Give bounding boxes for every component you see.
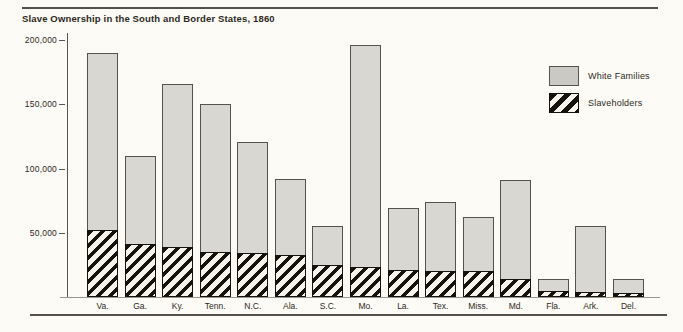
- x-axis-label-fla: Fla.: [533, 301, 573, 311]
- slaveholders-bar-ala: [275, 255, 306, 297]
- slaveholders-bar-del: [613, 293, 644, 297]
- white-families-swatch: [549, 66, 579, 86]
- y-tick-label: 50,000: [5, 228, 57, 238]
- slaveholders-bar-nc: [237, 253, 268, 297]
- white-families-bar-ark: [575, 226, 606, 297]
- white-families-label: White Families: [588, 71, 650, 81]
- x-axis-baseline: [60, 297, 660, 298]
- slaveholders-bar-mo: [350, 267, 381, 297]
- x-axis-label-ala: Ala.: [270, 301, 310, 311]
- y-tick-label: 150,000: [5, 99, 57, 109]
- slaveholders-bar-md: [500, 279, 531, 297]
- x-axis-label-ga: Ga.: [120, 301, 160, 311]
- chart-legend: White Families Slaveholders: [549, 65, 650, 119]
- y-tick-label: 100,000: [5, 164, 57, 174]
- x-axis-label-sc: S.C.: [308, 301, 348, 311]
- x-axis-label-md: Md.: [496, 301, 536, 311]
- y-tick-mark: [59, 169, 65, 170]
- bottom-rule: [30, 314, 667, 316]
- x-axis-label-la: La.: [383, 301, 423, 311]
- slaveholders-bar-ky: [162, 247, 193, 297]
- x-axis-label-nc: N.C.: [233, 301, 273, 311]
- slaveholders-bar-la: [388, 270, 419, 297]
- slaveholders-bar-ark: [575, 292, 606, 297]
- x-axis-label-tenn: Tenn.: [195, 301, 235, 311]
- y-tick-label: 200,000: [5, 35, 57, 45]
- legend-item-white-families: White Families: [549, 65, 650, 86]
- legend-item-slaveholders: Slaveholders: [549, 92, 650, 113]
- x-axis-label-va: Va.: [83, 301, 123, 311]
- slaveholders-bar-ga: [125, 244, 156, 297]
- y-axis-line: [67, 33, 68, 297]
- scanned-chart-page: Slave Ownership in the South and Border …: [0, 0, 683, 332]
- x-axis-label-del: Del.: [608, 301, 648, 311]
- y-tick-mark: [59, 104, 65, 105]
- y-tick-mark: [59, 40, 65, 41]
- white-families-bar-mo: [350, 45, 381, 297]
- slaveholders-swatch: [549, 93, 579, 113]
- x-axis-label-ky: Ky.: [158, 301, 198, 311]
- slaveholders-bar-fla: [538, 291, 569, 297]
- y-tick-mark: [59, 233, 65, 234]
- x-axis-label-ark: Ark.: [571, 301, 611, 311]
- x-axis-label-miss: Miss.: [458, 301, 498, 311]
- slaveholders-bar-tenn: [200, 252, 231, 297]
- slaveholders-label: Slaveholders: [588, 98, 642, 108]
- slaveholders-bar-sc: [312, 265, 343, 297]
- slaveholders-bar-tex: [425, 271, 456, 297]
- bar-chart: 200,000150,000100,00050,000Va.Ga.Ky.Tenn…: [0, 0, 683, 332]
- slaveholders-bar-miss: [463, 271, 494, 297]
- x-axis-label-tex: Tex.: [421, 301, 461, 311]
- x-axis-label-mo: Mo.: [345, 301, 385, 311]
- slaveholders-bar-va: [87, 230, 118, 297]
